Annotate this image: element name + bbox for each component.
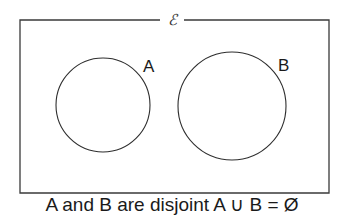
universal-set: ℰ bbox=[20, 11, 329, 193]
universe-rectangle bbox=[20, 20, 329, 193]
venn-diagram: ℰ A B bbox=[0, 0, 344, 217]
set-b: B bbox=[178, 52, 289, 160]
set-a-label: A bbox=[143, 57, 155, 76]
diagram-caption: A and B are disjoint A ∪ B = Ø bbox=[0, 193, 344, 217]
set-b-circle bbox=[178, 52, 286, 160]
set-a-circle bbox=[56, 58, 150, 152]
set-a: A bbox=[56, 57, 155, 152]
set-b-label: B bbox=[278, 56, 289, 75]
universe-symbol: ℰ bbox=[168, 11, 179, 29]
